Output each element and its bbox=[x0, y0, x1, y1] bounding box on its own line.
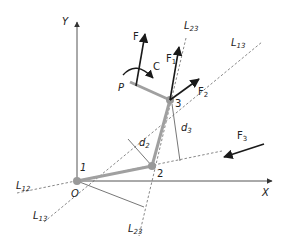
joint-1 bbox=[73, 177, 81, 185]
line-L13-bottom-label: L13 bbox=[33, 210, 48, 223]
point-2-label: 2 bbox=[157, 168, 163, 179]
force-F1-label: F1 bbox=[166, 53, 176, 66]
origin-label: O bbox=[71, 188, 79, 199]
line-L12-label: L12 bbox=[16, 180, 31, 193]
line-L23 bbox=[139, 38, 186, 236]
force-F3-arrow bbox=[224, 144, 264, 157]
line-L13-top-label: L13 bbox=[231, 37, 246, 50]
force-F2-arrow bbox=[170, 79, 199, 100]
couple-C-label: C bbox=[153, 61, 160, 72]
joint-2 bbox=[148, 162, 156, 170]
x-axis-label: X bbox=[261, 187, 270, 198]
diagram-canvas: Y X O 1 2 3 P F F1 F2 F3 C L12 L13 L13 L… bbox=[0, 0, 286, 246]
line-L23-top-label: L23 bbox=[184, 20, 199, 33]
member-1-2 bbox=[77, 166, 152, 181]
point-P-label: P bbox=[118, 82, 125, 93]
force-F-label: F bbox=[133, 31, 139, 42]
member-2-3 bbox=[152, 100, 170, 166]
force-F2-label: F2 bbox=[198, 86, 208, 99]
line-L23-bottom-label: L23 bbox=[128, 223, 143, 236]
distance-d2-label: d2 bbox=[139, 137, 150, 150]
point-1-label: 1 bbox=[80, 162, 86, 173]
force-F3-label: F3 bbox=[237, 130, 247, 143]
point-3-label: 3 bbox=[175, 98, 181, 109]
distance-O-L23-line bbox=[77, 181, 144, 207]
distance-d3-label: d3 bbox=[181, 122, 192, 135]
y-axis-label: Y bbox=[62, 16, 69, 27]
